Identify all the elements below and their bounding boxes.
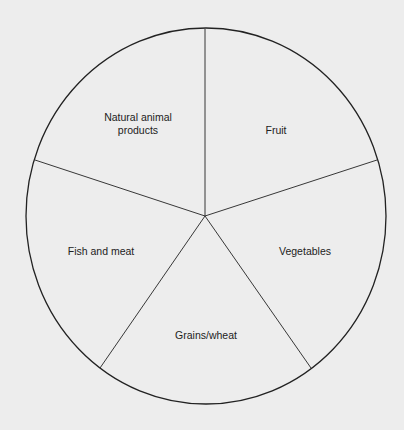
segment-label-vegetables: Vegetables xyxy=(279,245,331,258)
pie-outline xyxy=(0,0,404,430)
diagram: Natural animal products Fruit Vegetables… xyxy=(0,0,404,430)
segment-label-natural-animal-products: Natural animal products xyxy=(104,111,172,137)
segment-label-grains-wheat: Grains/wheat xyxy=(175,329,237,342)
segment-label-fish-and-meat: Fish and meat xyxy=(68,245,135,258)
segment-label-fruit: Fruit xyxy=(266,124,287,137)
